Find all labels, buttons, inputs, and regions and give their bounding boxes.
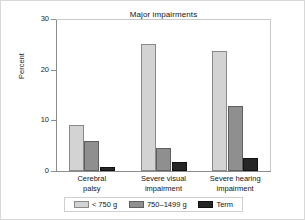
x-axis-category-label: Severe hearingimpairment (198, 174, 272, 193)
category-label-line: impairment (198, 184, 272, 194)
category-label-line: Severe hearing (198, 174, 272, 184)
bar (69, 125, 84, 171)
bar (141, 44, 156, 171)
bars-layer (56, 19, 271, 171)
x-axis-category-label: Cerebralpalsy (55, 174, 129, 193)
legend-swatch-icon (74, 201, 89, 208)
category-label-line: Cerebral (55, 174, 129, 184)
category-label-line: palsy (55, 184, 129, 194)
bar (228, 106, 243, 171)
legend-item[interactable]: < 750 g (74, 200, 117, 209)
category-label-line: impairment (127, 184, 201, 194)
y-axis-title: Percent (17, 53, 26, 79)
legend-label: < 750 g (92, 200, 117, 209)
y-axis-tick-label: 20 (41, 65, 49, 74)
y-axis-tick: 0 (51, 171, 56, 172)
legend-item[interactable]: Term (198, 200, 233, 209)
legend-swatch-icon (198, 201, 213, 208)
x-axis-line (56, 171, 271, 172)
legend-label: Term (216, 200, 233, 209)
y-axis-tick-label: 30 (41, 14, 49, 23)
figure-container: Major impairments 0102030 Percent Cerebr… (0, 0, 305, 220)
legend-item[interactable]: 750–1499 g (129, 200, 187, 209)
category-label-line: Severe visual (127, 174, 201, 184)
x-axis-category-label: Severe visualimpairment (127, 174, 201, 193)
bar (156, 148, 171, 171)
bar (172, 162, 187, 171)
bar (212, 51, 227, 171)
y-axis-tick-label: 10 (41, 115, 49, 124)
y-axis-tick-label: 0 (45, 166, 49, 175)
bar (243, 158, 258, 171)
bar (100, 167, 115, 171)
legend-label: 750–1499 g (147, 200, 187, 209)
legend-swatch-icon (129, 201, 144, 208)
bar (84, 141, 99, 171)
chart-legend: < 750 g750–1499 gTerm (64, 197, 243, 212)
